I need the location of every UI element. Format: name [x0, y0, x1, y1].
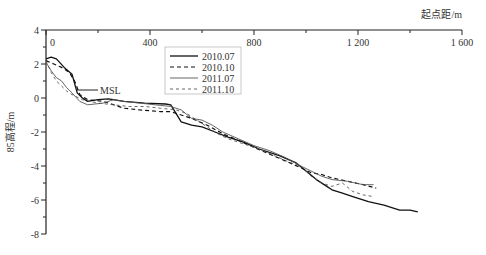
legend-label: 2010.07	[202, 51, 235, 62]
chart: 04008001 2001 600420-2-4-6-8 起点距/m 85高程/…	[0, 0, 486, 255]
y-tick-label: 2	[34, 59, 39, 70]
ticks: 04008001 2001 600420-2-4-6-8	[31, 25, 474, 240]
y-tick-label: -6	[31, 195, 39, 206]
x-axis-title: 起点距/m	[421, 9, 462, 20]
y-tick-label: -2	[31, 127, 39, 138]
y-tick-label: -8	[31, 229, 39, 240]
legend-label: 2011.10	[202, 84, 234, 95]
y-axis-title: 85高程/m	[4, 112, 16, 153]
x-tick-label: 400	[143, 37, 158, 48]
x-tick-label: 1 600	[451, 37, 474, 48]
legend-label: 2010.10	[202, 62, 235, 73]
msl-label: MSL	[100, 85, 121, 96]
x-tick-label: 800	[247, 37, 262, 48]
legend-label: 2011.07	[202, 73, 234, 84]
legend: 2010.072010.102011.072011.10	[165, 47, 241, 95]
msl-annotation: MSL	[76, 85, 121, 96]
axes	[46, 30, 462, 234]
y-tick-label: 0	[34, 93, 39, 104]
y-tick-label: -4	[31, 161, 39, 172]
y-tick-label: 4	[34, 25, 39, 36]
x-tick-label: 0	[50, 37, 55, 48]
x-tick-label: 1 200	[347, 37, 370, 48]
